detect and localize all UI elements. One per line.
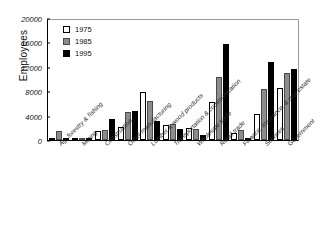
legend-item-1985: 1985 bbox=[63, 36, 92, 47]
y-tick-mark bbox=[47, 19, 50, 20]
y-tick-mark bbox=[47, 67, 50, 68]
y-tick-mark bbox=[47, 116, 50, 117]
y-tick-mark bbox=[47, 92, 50, 93]
bar-1975 bbox=[72, 138, 78, 140]
y-tick-label: 16000 bbox=[0, 39, 46, 48]
legend-item-1975: 1975 bbox=[63, 24, 92, 35]
y-tick-label: 8000 bbox=[0, 88, 46, 97]
y-tick-mark bbox=[47, 43, 50, 44]
bar-1975 bbox=[49, 138, 55, 140]
legend-label-1995: 1995 bbox=[75, 49, 92, 58]
bar-chart: Employees 040008000120001600020000 1975 … bbox=[0, 0, 321, 230]
legend-item-1995: 1995 bbox=[63, 48, 92, 59]
bar-1995 bbox=[291, 69, 297, 140]
y-tick-label: 20000 bbox=[0, 15, 46, 24]
y-tick-label: 4000 bbox=[0, 112, 46, 121]
legend-label-1985: 1985 bbox=[75, 37, 92, 46]
bar-1985 bbox=[261, 89, 267, 140]
y-tick-label: 0 bbox=[0, 137, 46, 146]
legend-swatch-1975 bbox=[63, 26, 70, 33]
bar-group bbox=[93, 20, 116, 140]
y-tick-label: 12000 bbox=[0, 63, 46, 72]
legend-swatch-1985 bbox=[63, 38, 70, 45]
legend-swatch-1995 bbox=[63, 50, 70, 57]
x-axis-labels: Ag, forestry & fishingMiningConstruction… bbox=[47, 142, 299, 228]
legend: 1975 1985 1995 bbox=[63, 24, 92, 60]
bar-1995 bbox=[268, 62, 274, 140]
bar-group bbox=[275, 20, 298, 140]
legend-label-1975: 1975 bbox=[75, 25, 92, 34]
